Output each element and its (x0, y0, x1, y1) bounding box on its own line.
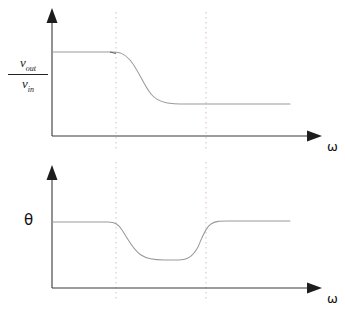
phase-y-axis-arrowhead (47, 165, 58, 180)
figure-canvas: vout vin ω θ ω (0, 0, 345, 318)
omega-label-bottom: ω (327, 292, 338, 305)
phase-plot (0, 0, 345, 318)
phase-x-axis-arrowhead (307, 283, 322, 294)
phase-axis-label: θ (24, 213, 33, 228)
phase-response-curve (53, 221, 290, 260)
